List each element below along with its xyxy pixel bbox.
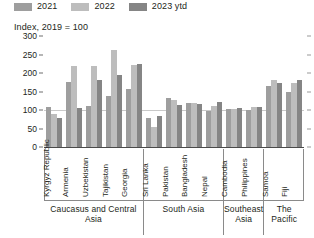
- y-tick-mark: [39, 128, 43, 129]
- bar[interactable]: [97, 80, 102, 147]
- bar-cluster[interactable]: [64, 36, 84, 147]
- y-tick-50: 50: [0, 124, 44, 134]
- category-label-text: Uzbekistan: [82, 157, 90, 197]
- bar-group-3: [224, 36, 264, 147]
- y-tick-300: 300: [0, 31, 44, 41]
- category-label-text: Samoa: [262, 172, 270, 197]
- bar[interactable]: [77, 108, 82, 147]
- bar-group-1: [44, 36, 144, 147]
- category-label-text: Fiji: [281, 187, 289, 197]
- y-tick-mark: [39, 91, 43, 92]
- legend-label-2021: 2021: [37, 2, 57, 11]
- bar-cluster[interactable]: [124, 36, 144, 147]
- plot-area: 300250200150100500: [0, 36, 314, 148]
- legend-item-2022[interactable]: 2022: [71, 2, 114, 11]
- bar-cluster[interactable]: [204, 36, 224, 147]
- region-label-3: Southeast Asia: [224, 201, 265, 235]
- axis-baseline: [44, 147, 304, 148]
- y-tick-150: 150: [0, 87, 44, 97]
- legend-swatch-2022: [71, 3, 89, 11]
- bar[interactable]: [137, 64, 142, 147]
- bar-group-4: [264, 36, 304, 147]
- bar-cluster[interactable]: [144, 36, 164, 147]
- y-tick-mark: [39, 73, 43, 74]
- bar-group-2: [144, 36, 224, 147]
- y-tick-mark-right: [307, 147, 311, 148]
- y-tick-250: 250: [0, 50, 44, 60]
- y-tick-mark-right: [307, 91, 311, 92]
- y-tick-0: 0: [0, 142, 44, 152]
- legend-item-2023-ytd[interactable]: 2023 ytd: [129, 2, 187, 11]
- legend-swatch-2021: [14, 3, 32, 11]
- y-tick-200: 200: [0, 68, 44, 78]
- category-label-text: Philippines: [241, 158, 249, 197]
- category-label-band: Kyrgyz RepublicArmeniaUzbekistanTajikist…: [44, 149, 304, 201]
- category-label-text: Pakistan: [162, 166, 170, 197]
- bar-cluster[interactable]: [44, 36, 64, 147]
- y-tick-mark-right: [307, 36, 311, 37]
- y-tick-mark: [39, 54, 43, 55]
- y-tick-mark-right: [307, 54, 311, 55]
- bar-cluster[interactable]: [184, 36, 204, 147]
- bar-cluster[interactable]: [244, 36, 264, 147]
- region-label-text: The Pacific: [264, 204, 304, 224]
- region-label-2: South Asia: [144, 201, 224, 235]
- y-tick-mark-right: [307, 73, 311, 74]
- legend-label-2022: 2022: [94, 2, 114, 11]
- bar-cluster[interactable]: [84, 36, 104, 147]
- region-label-band: Caucasus and Central AsiaSouth AsiaSouth…: [44, 201, 304, 235]
- category-label: Philippines: [243, 149, 263, 200]
- bar[interactable]: [297, 80, 302, 147]
- category-label-group-3: CambodiaPhilippines: [224, 149, 264, 200]
- category-label-text: Sri Lanka: [142, 163, 150, 197]
- bar-cluster[interactable]: [224, 36, 244, 147]
- legend-label-2023-ytd: 2023 ytd: [152, 2, 187, 11]
- bar[interactable]: [217, 102, 222, 147]
- bar-cluster[interactable]: [164, 36, 184, 147]
- bar[interactable]: [277, 83, 282, 147]
- region-label-4: The Pacific: [264, 201, 304, 235]
- bar[interactable]: [237, 108, 242, 147]
- bar-cluster[interactable]: [284, 36, 304, 147]
- y-axis: 300250200150100500: [0, 36, 44, 148]
- chart-legend: 2021 2022 2023 ytd: [14, 2, 201, 11]
- y-tick-100: 100: [0, 105, 44, 115]
- category-label-text: Nepal: [201, 176, 209, 197]
- bar[interactable]: [157, 116, 162, 147]
- bar-cluster[interactable]: [104, 36, 124, 147]
- y-tick-mark-right: [307, 128, 311, 129]
- region-label-text: South Asia: [163, 204, 205, 214]
- bar[interactable]: [177, 105, 182, 147]
- category-label-group-4: SamoaFiji: [264, 149, 303, 200]
- category-label-group-1: Kyrgyz RepublicArmeniaUzbekistanTajikist…: [45, 149, 144, 200]
- bar[interactable]: [57, 118, 62, 147]
- region-label-text: Caucasus and Central Asia: [44, 204, 143, 224]
- category-label: Fiji: [283, 149, 303, 200]
- bar-cluster[interactable]: [264, 36, 284, 147]
- region-label-text: Southeast Asia: [224, 204, 264, 224]
- category-label-text: Tajikistan: [102, 164, 110, 197]
- category-label-group-2: Sri LankaPakistanBangladeshNepal: [144, 149, 223, 200]
- bar[interactable]: [257, 107, 262, 147]
- legend-swatch-2023-ytd: [129, 3, 147, 11]
- category-label-text: Bangladesh: [181, 155, 189, 197]
- bar[interactable]: [117, 75, 122, 147]
- category-label-text: Kyrgyz Republic: [43, 139, 51, 197]
- y-tick-mark-right: [307, 110, 311, 111]
- bar-groups: [44, 36, 304, 147]
- category-label-text: Cambodia: [221, 161, 229, 197]
- region-label-1: Caucasus and Central Asia: [44, 201, 144, 235]
- plot-canvas: [44, 36, 304, 148]
- y-tick-mark: [39, 110, 43, 111]
- y-tick-mark: [39, 36, 43, 37]
- category-label-text: Armenia: [62, 167, 70, 197]
- bar[interactable]: [197, 104, 202, 147]
- legend-item-2021[interactable]: 2021: [14, 2, 57, 11]
- chart-root: 2021 2022 2023 ytd Index, 2019 = 100 300…: [0, 0, 314, 238]
- category-label-text: Georgia: [121, 169, 129, 197]
